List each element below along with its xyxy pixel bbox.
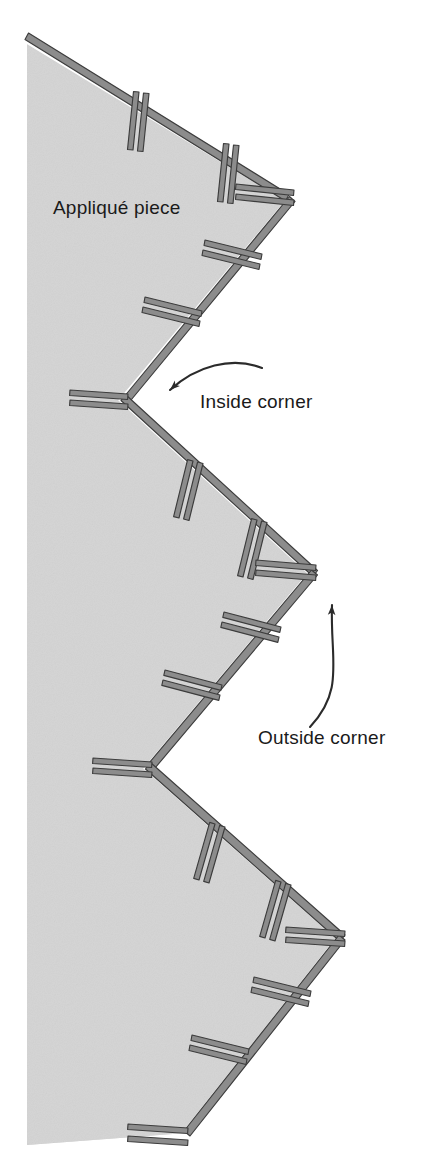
applique-illustration: Appliqué piece Inside corner Outside cor… — [0, 0, 421, 1164]
outside-corner-arrow — [310, 605, 334, 727]
applique-piece-label: Appliqué piece — [53, 197, 180, 218]
applique-diagram: Appliqué piece Inside corner Outside cor… — [0, 0, 421, 1164]
outside-corner-label: Outside corner — [258, 727, 386, 748]
inside-corner-arrow — [170, 363, 262, 390]
inside-corner-label: Inside corner — [200, 391, 313, 412]
